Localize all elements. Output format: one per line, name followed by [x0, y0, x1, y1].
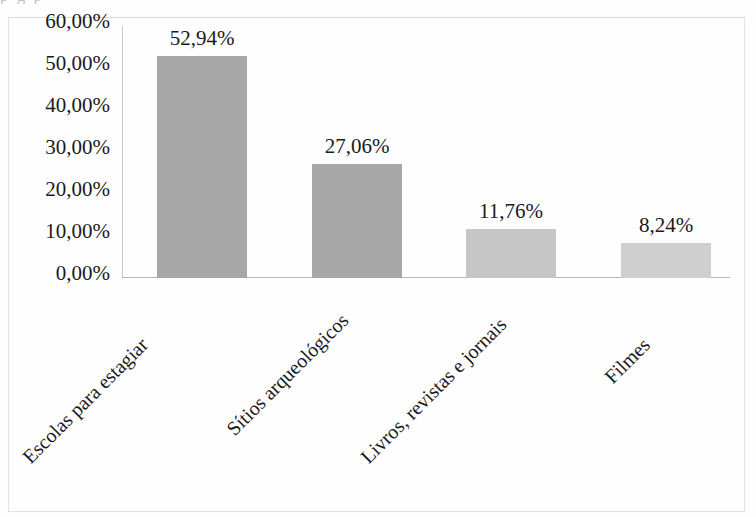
bar-fill [312, 164, 402, 278]
bar [621, 243, 711, 278]
bar [157, 56, 247, 278]
bar-fill [621, 243, 711, 278]
y-axis-tick-labels: 60,00%50,00%40,00%30,00%20,00%10,00%0,00… [6, 0, 118, 517]
bar-fill [466, 229, 556, 278]
bar [312, 164, 402, 278]
y-axis-tick-label: 30,00% [45, 137, 110, 158]
bar-value-label: 11,76% [466, 201, 556, 222]
bar-fill [157, 56, 247, 278]
y-axis-tick-label: 50,00% [45, 53, 110, 74]
y-axis-tick-label: 40,00% [45, 95, 110, 116]
y-axis-tick-label: 0,00% [56, 263, 110, 284]
bar-value-label: 8,24% [621, 215, 711, 236]
bar-value-label: 27,06% [312, 136, 402, 157]
bar-value-label: 52,94% [157, 28, 247, 49]
y-axis-tick-label: 20,00% [45, 179, 110, 200]
bar [466, 229, 556, 278]
plot-area [122, 26, 732, 278]
chart-figure: p g p 60,00%50,00%40,00%30,00%20,00%10,0… [0, 0, 756, 517]
y-axis-tick-label: 60,00% [45, 11, 110, 32]
y-axis-tick-label: 10,00% [45, 221, 110, 242]
